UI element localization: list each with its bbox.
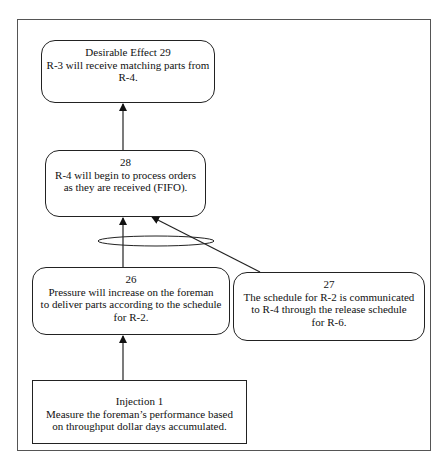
and-connector-ellipse: [98, 236, 214, 246]
effect-28-node: 28 R-4 will begin to process orders as t…: [45, 150, 206, 217]
node-title: Desirable Effect 29: [42, 46, 214, 59]
node-text: as they are received (FIFO).: [46, 181, 205, 194]
node-text: on throughput dollar days accumulated.: [33, 420, 246, 433]
node-text: for R-2.: [33, 311, 229, 324]
node-title: 26: [33, 273, 229, 286]
node-title: Injection 1: [33, 395, 246, 408]
node-text: Measure the foreman’s performance based: [33, 408, 246, 421]
node-text: to deliver parts according to the schedu…: [33, 298, 229, 311]
node-text: to R-4 through the release schedule: [234, 303, 424, 316]
node-title: 27: [234, 278, 424, 291]
effect-27-node: 27 The schedule for R-2 is communicated …: [233, 272, 425, 341]
node-text: R-4.: [42, 71, 214, 84]
node-text: R-3 will receive matching parts from: [42, 59, 214, 72]
node-text: R-4 will begin to process orders: [46, 169, 205, 182]
arrow-27-to-28: [152, 217, 260, 272]
node-text: for R-6.: [234, 316, 424, 329]
desirable-effect-29-node: Desirable Effect 29 R-3 will receive mat…: [41, 40, 215, 103]
effect-26-node: 26 Pressure will increase on the foreman…: [32, 267, 230, 335]
node-title: 28: [46, 156, 205, 169]
node-text: Pressure will increase on the foreman: [33, 286, 229, 299]
injection-1-node: Injection 1 Measure the foreman’s perfor…: [32, 380, 247, 444]
node-text: The schedule for R-2 is communicated: [234, 291, 424, 304]
